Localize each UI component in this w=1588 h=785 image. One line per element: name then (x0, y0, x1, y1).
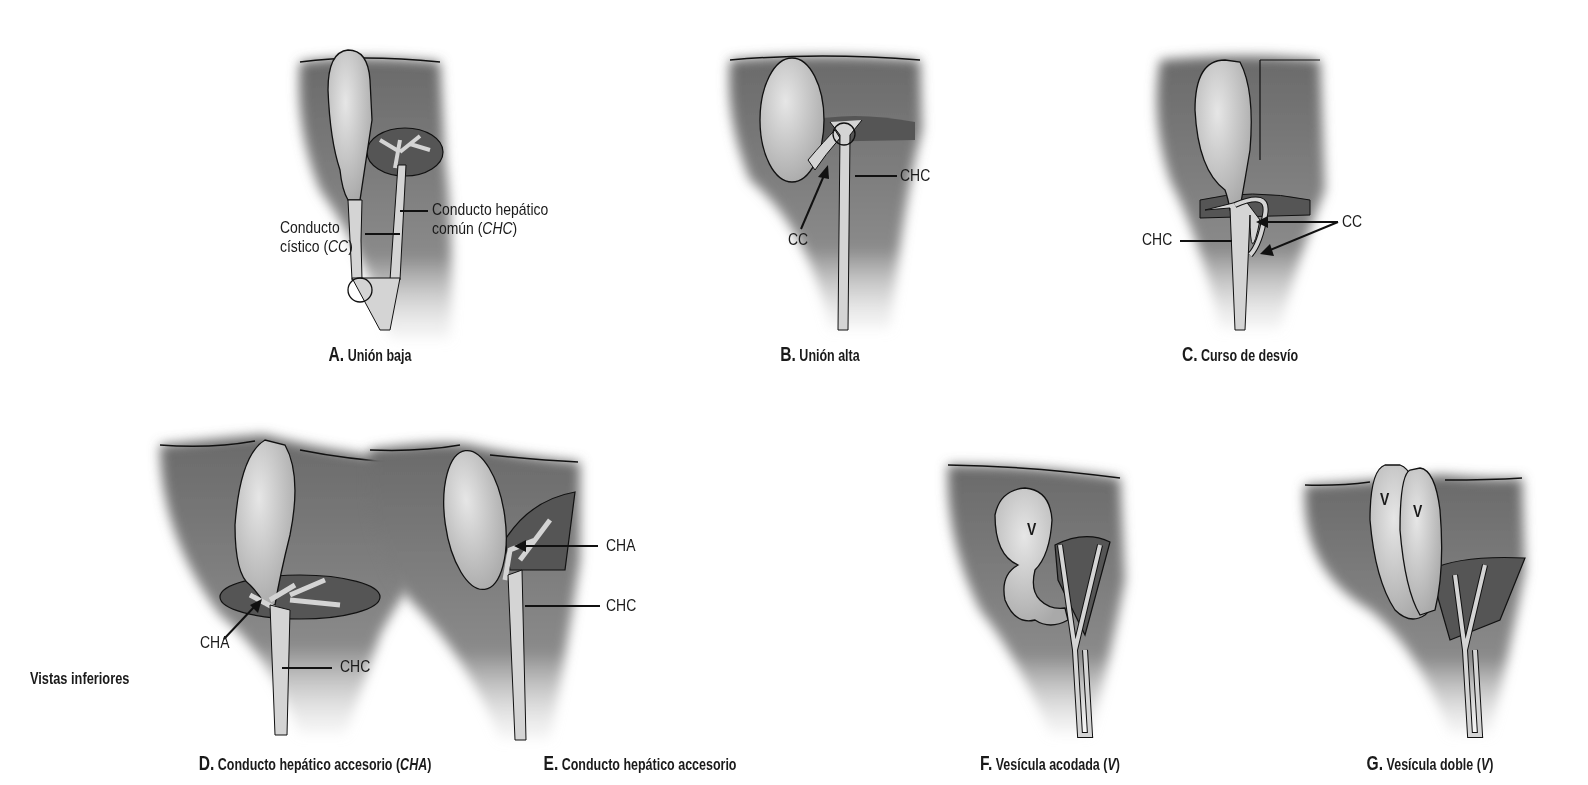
caption-d: D. Conducto hepático accesorio (CHA) (186, 752, 443, 775)
label-cha: CHA (606, 536, 635, 555)
label-cha: CHA (200, 633, 229, 652)
leader-line-chc (282, 667, 332, 669)
label-chc: CHC (1142, 230, 1172, 249)
panel-c-illustration (1110, 30, 1430, 340)
label-v1: V (1380, 490, 1389, 509)
label-chc: CHC (606, 596, 636, 615)
caption-b: B. Unión alta (742, 343, 898, 366)
panel-f-vesicula-acodada: V (940, 460, 1170, 740)
panel-e-conducto-hepatico-accesorio: CHA CHC (360, 440, 620, 740)
label-chc: Conducto hepático común (CHC) (432, 200, 548, 238)
label-cc: CC (788, 230, 808, 249)
leader-line-chc (1180, 240, 1232, 242)
panel-a-illustration (240, 40, 560, 340)
panel-g-vesicula-doble: V V (1300, 450, 1570, 740)
caption-g: G. Vesícula doble (V) (1352, 752, 1508, 775)
caption-a: A. Unión baja (292, 343, 448, 366)
leader-line-cc (365, 233, 400, 235)
arrow-cc (795, 165, 855, 235)
caption-f: F. Vesícula acodada (V) (972, 752, 1128, 775)
panel-b-union-alta: CHC CC (700, 30, 1000, 340)
leader-line-chc (855, 175, 897, 177)
panel-g-illustration (1300, 450, 1570, 740)
label-v2: V (1413, 502, 1422, 521)
leader-line-chc (525, 605, 600, 607)
panel-e-illustration (360, 440, 620, 740)
panel-c-curso-desvio: CHC CC (1110, 30, 1430, 340)
panel-a-union-baja: Conducto cístico (CC) Conducto hepático … (240, 40, 560, 340)
leader-line-chc (400, 210, 428, 212)
label-v: V (1027, 520, 1036, 539)
label-chc: CHC (900, 166, 930, 185)
label-cc: CC (1342, 212, 1362, 231)
arrow-cha (510, 532, 600, 562)
label-cc: Conducto cístico (CC) (280, 218, 353, 256)
arrows-cc (1250, 210, 1350, 270)
panel-f-illustration (940, 460, 1170, 740)
caption-c: C. Curso de desvío (1154, 343, 1326, 366)
caption-e: E. Conducto hepático accesorio (531, 752, 749, 775)
side-label-vistas-inferiores: Vistas inferiores (30, 670, 129, 688)
